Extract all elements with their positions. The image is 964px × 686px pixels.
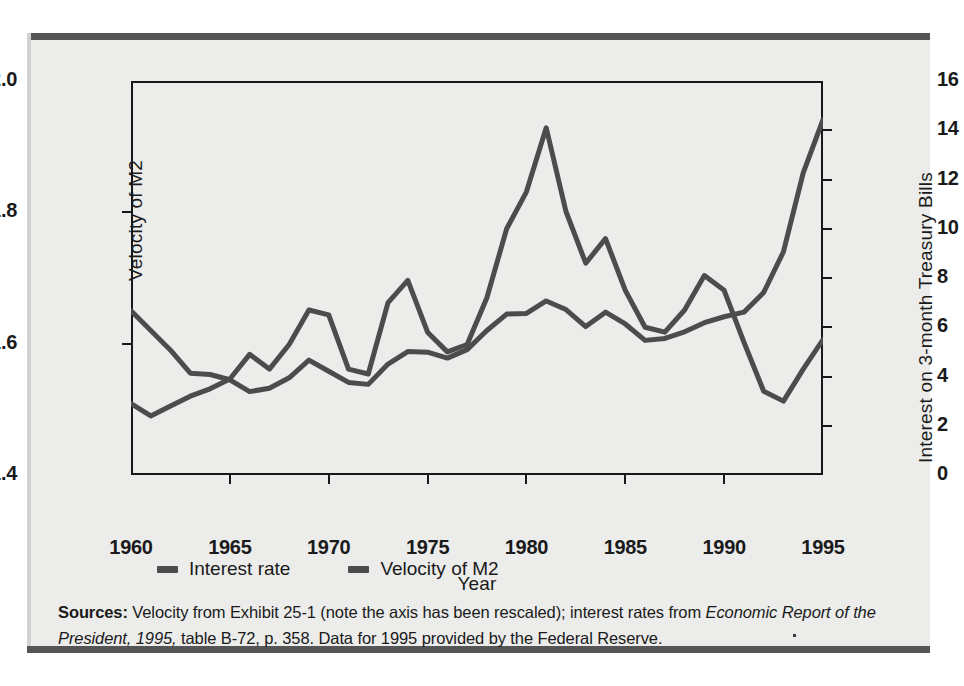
- left-axis-title: Velocity of M2: [125, 160, 147, 281]
- right-axis-title: Interest on 3-month Treasury Bills: [915, 172, 937, 463]
- source-text-2: table B-72, p. 358. Data for 1995 provid…: [177, 629, 663, 647]
- top-rule: [27, 33, 930, 40]
- figure-panel: 2.01.81.61.4 1614121086420 1960196519701…: [27, 33, 930, 653]
- x-tick-mark: [525, 475, 527, 484]
- legend: Interest rateVelocity of M2: [157, 558, 499, 580]
- series-line: [131, 120, 823, 392]
- left-rule: [27, 33, 31, 653]
- legend-swatch-icon: [157, 566, 178, 573]
- x-tick-mark: [229, 475, 231, 484]
- x-tick-mark: [427, 475, 429, 484]
- left-tick-mark: [122, 343, 131, 345]
- right-tick-label: 8: [937, 265, 964, 288]
- right-tick-label: 12: [937, 167, 964, 190]
- x-tick-label: 1980: [486, 536, 566, 559]
- legend-label: Velocity of M2: [380, 558, 498, 580]
- series-line: [131, 128, 823, 416]
- right-tick-label: 6: [937, 314, 964, 337]
- legend-item: Velocity of M2: [348, 558, 498, 580]
- x-tick-label: 1985: [585, 536, 665, 559]
- left-tick-label: 1.6: [0, 331, 17, 354]
- series-lines: [131, 81, 823, 475]
- right-tick-mark: [823, 228, 832, 230]
- right-tick-label: 2: [937, 413, 964, 436]
- left-tick-label: 1.8: [0, 199, 17, 222]
- right-tick-mark: [823, 129, 832, 131]
- right-tick-mark: [823, 326, 832, 328]
- right-tick-label: 14: [937, 117, 964, 140]
- right-tick-label: 16: [937, 68, 964, 91]
- x-tick-label: 1995: [783, 536, 863, 559]
- x-tick-mark: [624, 475, 626, 484]
- right-tick-mark: [823, 179, 832, 181]
- source-text-1: Velocity from Exhibit 25-1 (note the axi…: [128, 603, 706, 621]
- source-note: Sources: Velocity from Exhibit 25-1 (not…: [58, 600, 904, 651]
- legend-label: Interest rate: [189, 558, 290, 580]
- right-tick-mark: [823, 277, 832, 279]
- right-tick-label: 4: [937, 364, 964, 387]
- x-tick-label: 1990: [684, 536, 764, 559]
- stray-mark: [793, 634, 796, 637]
- legend-swatch-icon: [348, 566, 369, 573]
- right-tick-mark: [823, 425, 832, 427]
- x-tick-mark: [328, 475, 330, 484]
- x-tick-label: 1975: [388, 536, 468, 559]
- right-tick-label: 10: [937, 216, 964, 239]
- x-tick-label: 1960: [91, 536, 171, 559]
- legend-item: Interest rate: [157, 558, 290, 580]
- left-tick-label: 1.4: [0, 462, 17, 485]
- right-tick-mark: [823, 376, 832, 378]
- left-tick-label: 2.0: [0, 68, 17, 91]
- plot-area: 2.01.81.61.4 1614121086420 1960196519701…: [131, 81, 823, 475]
- source-label: Sources:: [58, 603, 128, 621]
- x-tick-label: 1965: [190, 536, 270, 559]
- x-tick-mark: [723, 475, 725, 484]
- right-tick-label: 0: [937, 462, 964, 485]
- x-tick-label: 1970: [289, 536, 369, 559]
